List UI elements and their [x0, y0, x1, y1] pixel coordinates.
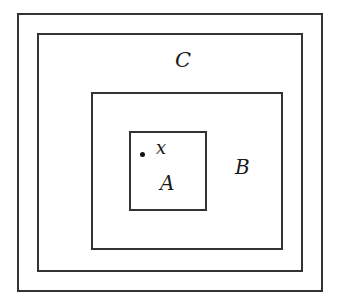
- point-x-dot: [140, 152, 145, 157]
- set-c-label: C: [175, 50, 191, 71]
- set-b-label: B: [235, 157, 250, 177]
- point-x-label: x: [156, 139, 166, 157]
- set-a-label: A: [160, 173, 174, 193]
